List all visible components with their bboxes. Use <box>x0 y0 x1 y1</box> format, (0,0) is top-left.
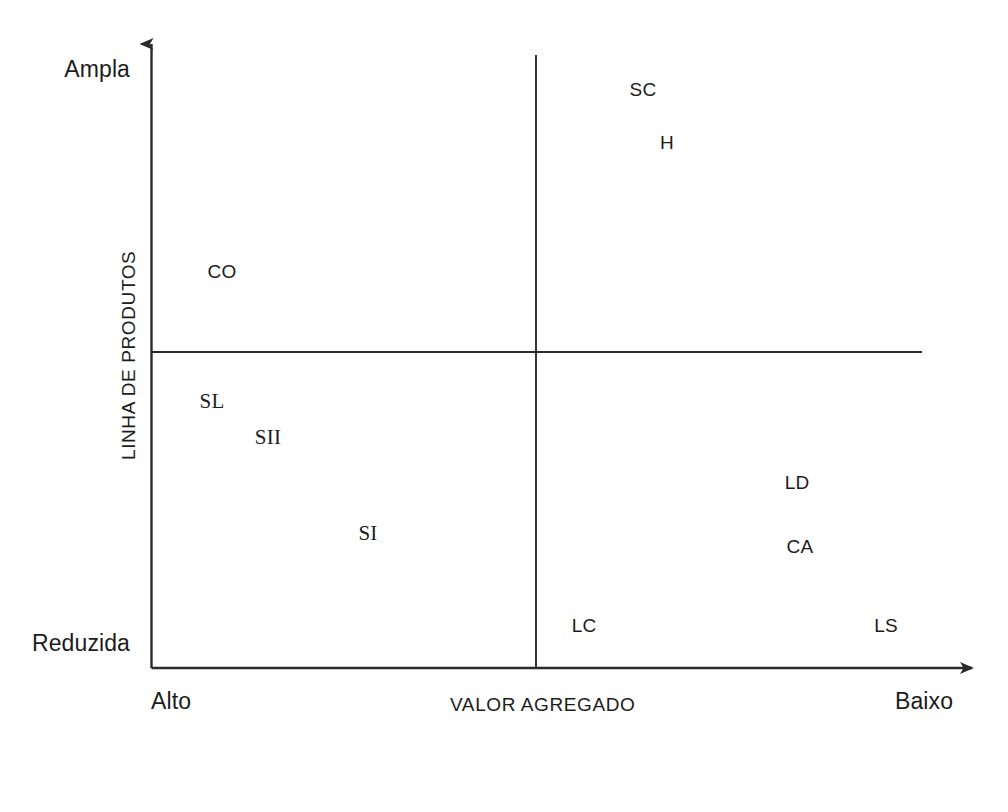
data-point-label: CA <box>787 536 814 558</box>
y-axis-bottom-label: Reduzida <box>32 632 130 655</box>
x-axis-title: VALOR AGREGADO <box>450 695 635 714</box>
data-point-label: LC <box>572 615 597 637</box>
data-point-label: SII <box>255 425 281 450</box>
data-point-label: SC <box>630 79 657 101</box>
x-axis-left-label: Alto <box>151 690 191 713</box>
data-point-label: SI <box>358 521 377 546</box>
y-axis-top-label: Ampla <box>64 58 130 81</box>
data-point-label: CO <box>208 261 237 283</box>
data-point-label: LS <box>874 615 898 637</box>
data-point-label: SL <box>200 389 225 414</box>
quadrant-chart-figure: Ampla Reduzida Alto Baixo LINHA DE PRODU… <box>0 0 1008 812</box>
y-axis-title: LINHA DE PRODUTOS <box>118 251 140 460</box>
x-axis-right-label: Baixo <box>895 690 953 713</box>
data-point-label: H <box>660 132 674 154</box>
data-point-label: LD <box>785 472 810 494</box>
